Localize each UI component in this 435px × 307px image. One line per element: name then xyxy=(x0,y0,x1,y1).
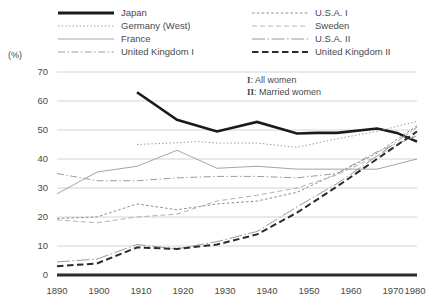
series-line-germany-west xyxy=(137,121,417,147)
series-line-u-s-a-ii xyxy=(57,127,417,262)
series-line-japan xyxy=(137,92,417,141)
series-line-u-s-a-i xyxy=(57,126,417,219)
series-lines xyxy=(57,92,417,266)
series-line-united-kingdom-i xyxy=(57,136,417,181)
chart-container: Japan Germany (West) France United Kingd… xyxy=(0,0,435,307)
series-line-france xyxy=(57,150,417,194)
plot-svg xyxy=(0,0,435,307)
plot-area xyxy=(0,0,435,307)
series-line-sweden xyxy=(57,134,417,222)
